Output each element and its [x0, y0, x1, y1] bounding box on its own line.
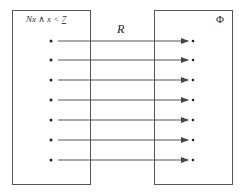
domain-element-dot — [50, 99, 53, 102]
mapping-row — [50, 40, 195, 43]
mapping-row — [50, 99, 195, 102]
mapping-row — [50, 59, 195, 62]
codomain-element-dot — [192, 99, 195, 102]
mapping-row — [50, 159, 195, 162]
codomain-element-dot — [192, 119, 195, 122]
codomain-element-dot — [192, 40, 195, 43]
domain-element-dot — [50, 119, 53, 122]
mapping-row — [50, 119, 195, 122]
mapping-arrows — [50, 40, 195, 162]
domain-set-label-main: Nx ∧ x < — [25, 14, 62, 24]
codomain-element-dot — [192, 139, 195, 142]
codomain-set-box — [155, 11, 233, 185]
codomain-element-dot — [192, 159, 195, 162]
domain-set: Nx ∧ x < 7 — [13, 11, 91, 185]
relation-label: R — [116, 22, 125, 36]
domain-set-label: Nx ∧ x < 7 — [25, 14, 67, 24]
domain-element-dot — [50, 159, 53, 162]
domain-set-label-bound: 7 — [62, 14, 67, 24]
mapping-row — [50, 79, 195, 82]
relation-diagram: Nx ∧ x < 7 Φ R — [0, 0, 244, 194]
domain-element-dot — [50, 79, 53, 82]
domain-set-box — [13, 11, 91, 185]
domain-element-dot — [50, 139, 53, 142]
domain-element-dot — [50, 40, 53, 43]
codomain-set-label: Φ — [216, 13, 224, 25]
codomain-element-dot — [192, 79, 195, 82]
codomain-element-dot — [192, 59, 195, 62]
domain-element-dot — [50, 59, 53, 62]
codomain-set: Φ — [155, 11, 233, 185]
mapping-row — [50, 139, 195, 142]
